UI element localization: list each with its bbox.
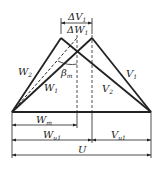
label-delta-W1: ΔW1 — [66, 24, 88, 36]
vector-V2 — [61, 38, 151, 112]
label-Wm: Wm — [36, 114, 52, 126]
label-Wu1: Wu1 — [43, 129, 61, 141]
vector-V1 — [92, 38, 151, 112]
label-V1: V1 — [126, 68, 137, 80]
label-Vu1: Vu1 — [111, 129, 126, 141]
label-beta-m: βm — [60, 67, 73, 79]
label-U: U — [78, 144, 87, 155]
label-W2: W2 — [18, 66, 32, 78]
velocity-triangle-diagram: ΔV1 ΔW1 W2 W1 V1 V2 βm Wm Wu1 Vu1 U — [0, 0, 161, 172]
label-delta-V1: ΔV1 — [67, 11, 86, 23]
label-V2: V2 — [102, 83, 113, 95]
label-W1: W1 — [44, 82, 58, 94]
